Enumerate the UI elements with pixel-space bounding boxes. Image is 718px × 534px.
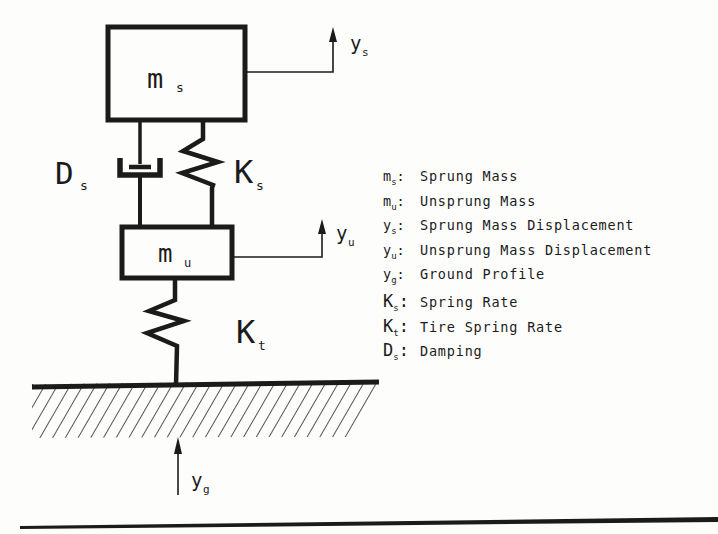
legend-description: Tire Spring Rate [420, 319, 563, 335]
legend-description: Ground Profile [420, 266, 545, 282]
legend-description: Sprung Mass [420, 168, 518, 184]
svg-text:u: u [348, 236, 355, 249]
damper-label: D s [55, 155, 88, 193]
quarter-car-model-diagram: m s y s D s K s [0, 0, 718, 534]
legend-symbol: Ks: [383, 291, 420, 311]
svg-text:K: K [234, 153, 254, 191]
svg-text:D: D [55, 155, 74, 191]
legend-description: Unsprung Mass [420, 193, 536, 209]
legend-item: yu: Unsprung Mass Displacement [383, 242, 652, 267]
legend-symbol: ys: [383, 217, 420, 233]
yu-arrowhead-icon [318, 219, 326, 234]
unsprung-mass-label: m u [158, 240, 191, 270]
svg-text:t: t [258, 338, 266, 353]
legend-item: yg: Ground Profile [383, 266, 652, 291]
page-rule-line [20, 517, 718, 529]
yg-ground-arrow [174, 437, 182, 495]
svg-text:y: y [191, 469, 202, 491]
yg-arrowhead-icon [174, 437, 182, 454]
tire-spring-symbol [147, 278, 184, 385]
ys-displacement-arrow [245, 27, 337, 72]
legend-item: Ds: Damping [383, 340, 652, 365]
legend-symbol: mu: [383, 193, 420, 209]
legend-symbol: ms: [383, 168, 420, 184]
svg-text:m: m [147, 63, 163, 94]
legend-description: Unsprung Mass Displacement [420, 242, 652, 258]
tire-spring-rate-label: K t [236, 313, 266, 353]
ys-arrow-label: y s [350, 32, 369, 59]
legend-item: ys: Sprung Mass Displacement [383, 217, 652, 242]
ground-hatching [32, 380, 381, 438]
legend-description: Sprung Mass Displacement [420, 217, 634, 233]
legend: ms: Sprung Mass mu: Unsprung Mass ys: Sp… [383, 168, 652, 365]
svg-text:s: s [176, 80, 184, 95]
legend-description: Damping [420, 343, 483, 359]
legend-item: mu: Unsprung Mass [383, 193, 652, 218]
unsprung-mass-box [122, 227, 232, 278]
legend-symbol: yg: [383, 266, 420, 282]
svg-text:K: K [236, 313, 256, 351]
legend-symbol: yu: [383, 242, 420, 258]
yu-arrow-label: y u [336, 222, 355, 249]
yu-displacement-arrow [232, 219, 326, 257]
spring-rate-label: K s [234, 153, 264, 193]
legend-symbol: Ds: [383, 340, 420, 360]
yg-arrow-label: y g [191, 469, 210, 496]
svg-text:y: y [350, 32, 361, 54]
sprung-mass-label: m s [147, 63, 184, 95]
sprung-mass-box [108, 27, 245, 120]
svg-text:y: y [336, 222, 347, 244]
svg-text:s: s [80, 178, 88, 193]
legend-item: Ks: Spring Rate [383, 291, 652, 316]
legend-item: ms: Sprung Mass [383, 168, 652, 193]
ys-arrowhead-icon [329, 27, 337, 42]
suspension-spring-symbol [182, 120, 218, 227]
legend-item: Kt: Tire Spring Rate [383, 316, 652, 341]
damper-symbol [120, 120, 160, 227]
svg-text:s: s [256, 178, 264, 193]
svg-text:m: m [158, 240, 172, 268]
legend-symbol: Kt: [383, 316, 420, 336]
legend-description: Spring Rate [420, 294, 518, 310]
svg-text:g: g [203, 483, 210, 496]
svg-text:u: u [184, 256, 191, 270]
svg-text:s: s [362, 46, 369, 59]
